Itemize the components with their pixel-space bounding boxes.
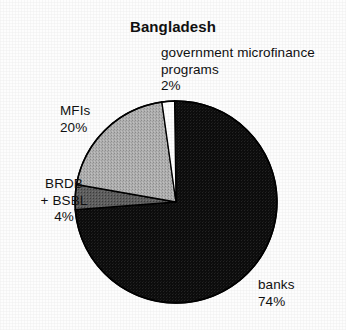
slice-label-brdb-bsbl: BRDB + BSBL 4% [22, 176, 106, 226]
slice-label-line: programs [161, 62, 315, 79]
slice-label-government-microfinance-programs: government microfinance programs 2% [161, 45, 315, 95]
slice-label-line: BRDB [22, 176, 106, 193]
slice-value-brdb-bsbl: 4% [22, 209, 106, 226]
slice-label-mfis: MFIs 20% [60, 103, 90, 136]
slice-value-banks: 74% [258, 294, 295, 311]
slice-label-line: government microfinance [161, 45, 315, 62]
slice-label-line: + BSBL [22, 193, 106, 210]
chart-page: Bangladesh [0, 0, 346, 330]
slice-value-mfis: 20% [60, 120, 90, 137]
slice-value-government-microfinance-programs: 2% [161, 78, 315, 95]
slice-label-line: MFIs [60, 103, 90, 120]
slice-label-line: banks [258, 277, 295, 294]
slice-label-banks: banks 74% [258, 277, 295, 310]
